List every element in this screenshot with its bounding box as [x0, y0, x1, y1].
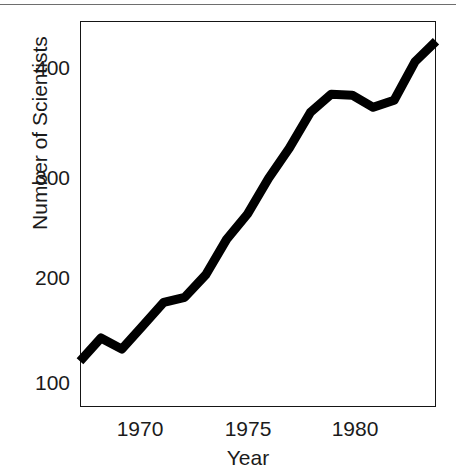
header-divider-rule: [0, 4, 456, 5]
x-axis-title: Year: [178, 447, 318, 468]
y-tick-label-100: 100: [0, 372, 70, 393]
x-tick-label-1970: 1970: [100, 418, 180, 439]
y-axis-title: Number of Scientists: [29, 8, 50, 258]
x-tick-label-1980: 1980: [315, 418, 395, 439]
x-tick-label-1975: 1975: [208, 418, 288, 439]
data-series-line: [80, 41, 436, 361]
figure-chart-number-of-scientists: 400 300 200 100 1970 1975 1980 Year Numb…: [0, 0, 456, 475]
y-axis-title-wrapper: Number of Scientists: [29, 8, 55, 258]
plot-canvas: [80, 21, 436, 407]
y-tick-label-200: 200: [0, 267, 70, 288]
